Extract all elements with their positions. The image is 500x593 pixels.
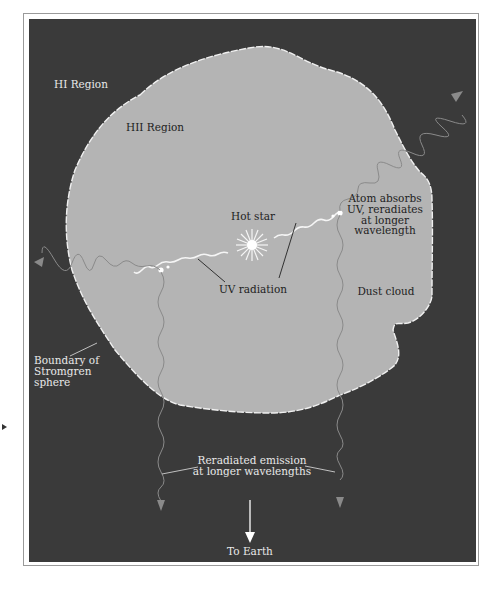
hot-star-label: Hot star [231,210,276,222]
stromgren-diagram: HI Region HII Region Hot star Atom absor… [0,0,500,593]
hii-region-label: HII Region [126,121,184,133]
hi-region-label: HI Region [54,78,108,90]
atom-absorbs-line-4: wavelength [354,224,416,236]
uv-radiation-label: UV radiation [219,283,287,295]
atom-absorbs-label: Atom absorbs UV, reradiates at longer wa… [347,192,423,236]
to-earth-label: To Earth [227,545,273,557]
reradiated-emission-label: Reradiated emission at longer wavelength… [193,454,311,477]
dust-cloud-label: Dust cloud [357,285,414,297]
boundary-line-3: sphere [34,376,70,388]
reradiated-line-2: at longer wavelengths [193,465,311,477]
